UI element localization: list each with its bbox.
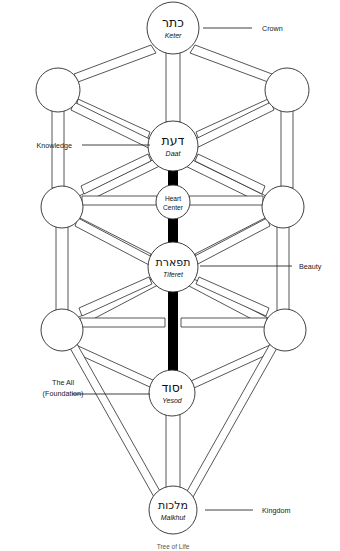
node-heart-center[interactable]: Heart Center	[156, 185, 190, 219]
annotation-beauty: Beauty	[200, 262, 322, 271]
bar-heart-tiferet	[168, 217, 178, 245]
node-tiferet-hebrew: תפארת	[156, 256, 191, 269]
node-left-mid[interactable]	[41, 186, 83, 228]
annotation-label-beauty: Beauty	[299, 262, 322, 271]
bar-tiferet-yesod	[168, 290, 178, 372]
heart-center-line2: Center	[163, 204, 184, 211]
annotation-kingdom: Kingdom	[205, 506, 290, 515]
path-rightmid-rightlow	[277, 226, 289, 311]
annotation-label-crown: Crown	[262, 24, 283, 33]
node-daat-translit: Daat	[166, 150, 182, 157]
path-keter-daat	[166, 52, 180, 122]
annotation-label-foundation-line2: (Foundation)	[43, 389, 84, 398]
annotation-crown: Crown	[203, 24, 283, 33]
annotation-knowledge: Knowledge	[36, 141, 150, 150]
node-daat-hebrew: דעת	[162, 133, 185, 148]
heart-center-line1: Heart	[165, 195, 181, 202]
node-yesod-translit: Yesod	[162, 397, 183, 404]
node-left-top[interactable]	[36, 68, 80, 112]
path-keter-lefttop	[74, 45, 156, 82]
node-keter-translit: Keter	[165, 32, 182, 39]
path-keter-righttop	[190, 45, 272, 82]
node-tiferet[interactable]: תפארת Tiferet	[148, 242, 198, 292]
node-tiferet-translit: Tiferet	[163, 271, 184, 278]
node-malkhut-hebrew: מלכות	[158, 499, 188, 512]
node-daat[interactable]: דעת Daat	[148, 121, 198, 171]
path-yesod-malkhut	[166, 412, 180, 492]
annotation-label-foundation-line1: The All	[52, 378, 74, 387]
node-yesod[interactable]: יסוד Yesod	[149, 370, 195, 416]
node-keter[interactable]: כתר Keter	[147, 2, 199, 54]
node-right-low[interactable]	[264, 309, 306, 351]
diagram-caption: Tree of Life	[157, 543, 190, 550]
annotation-label-kingdom: Kingdom	[262, 506, 290, 515]
node-right-top[interactable]	[265, 68, 309, 112]
node-malkhut-translit: Malkhut	[161, 514, 187, 521]
node-yesod-hebrew: יסוד	[161, 380, 182, 395]
node-heart-circle	[156, 185, 190, 219]
node-malkhut[interactable]: מלכות Malkhut	[149, 486, 197, 534]
node-keter-hebrew: כתר	[162, 15, 184, 30]
path-leftmid-leftlow	[56, 226, 68, 311]
path-leftlow-middle	[80, 318, 165, 327]
path-tiferet-rightlow	[196, 277, 269, 316]
path-righttop-rightmid	[281, 110, 293, 188]
node-left-low[interactable]	[41, 309, 83, 351]
node-right-mid[interactable]	[262, 186, 304, 228]
path-rightlow-middle	[181, 318, 267, 327]
path-tiferet-leftlow	[79, 277, 152, 316]
tree-of-life-svg: כתר Keter דעת Daat Heart Center תפארת Ti…	[0, 0, 340, 551]
path-leftmid-heart	[82, 196, 157, 205]
annotation-label-knowledge: Knowledge	[36, 141, 72, 150]
path-rightmid-heart	[189, 196, 263, 205]
tree-of-life-diagram: כתר Keter דעת Daat Heart Center תפארת Ti…	[0, 0, 340, 551]
